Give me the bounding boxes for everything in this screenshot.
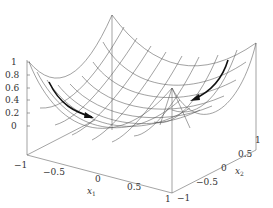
x1-axis-labels: −1 −0.5 0 0.5 1 x1 — [14, 160, 171, 204]
z-tick-0.4: 0.4 — [5, 95, 20, 105]
surface-mesh — [29, 15, 256, 142]
z-tick-0: 0 — [11, 121, 17, 131]
z-tick-0.2: 0.2 — [5, 108, 19, 118]
x1-tick-0: 0 — [95, 174, 101, 184]
x2-tick-1: 1 — [255, 135, 261, 145]
left-descent-arrow — [49, 82, 92, 117]
z-axis-ticks — [27, 62, 30, 126]
x2-tick-neg0.5: −0.5 — [196, 177, 218, 187]
x2-axis-title: x2 — [235, 166, 244, 177]
left-arrowhead-icon — [84, 112, 94, 118]
descent-arrows — [49, 60, 228, 118]
z-tick-1: 1 — [11, 57, 17, 67]
x1-tick-neg1: −1 — [14, 160, 27, 170]
x1-tick-0.5: 0.5 — [127, 182, 142, 192]
x1-tick-1: 1 — [165, 194, 171, 204]
x2-tick-0: 0 — [221, 163, 227, 173]
x2-tick-0.5: 0.5 — [238, 149, 253, 159]
z-axis-labels: 1 0.8 0.6 0.4 0.2 0 — [5, 57, 20, 131]
z-tick-0.6: 0.6 — [5, 83, 20, 93]
x1-tick-neg0.5: −0.5 — [43, 167, 65, 177]
x1-axis-title: x1 — [87, 186, 96, 197]
surface-plot: 1 0.8 0.6 0.4 0.2 0 −1 −0.5 0 0.5 1 x1 −… — [0, 0, 273, 208]
x2-tick-neg1: −1 — [177, 193, 190, 203]
z-tick-0.8: 0.8 — [5, 70, 20, 80]
